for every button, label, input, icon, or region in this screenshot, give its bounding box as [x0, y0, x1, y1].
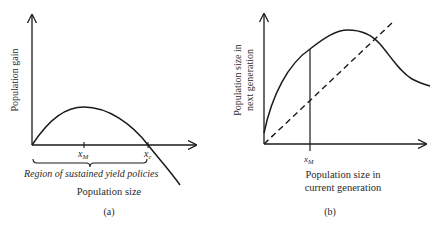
- panel-a: xM xc Region of sustained yield policies…: [9, 15, 196, 218]
- panel-b: xM Population size in next generation Po…: [232, 14, 430, 218]
- panel-b-reproduction-curve: [264, 30, 430, 133]
- panel-b-y-axis-label-line2: next generation: [244, 49, 255, 111]
- panel-b-x-axis-label-line2: current generation: [305, 182, 382, 193]
- panel-a-region-brace: [33, 159, 147, 167]
- panel-b-caption: (b): [324, 206, 336, 218]
- panel-b-x-axis-label-line1: Population size in: [305, 169, 381, 180]
- panel-a-xm-label: xM: [77, 148, 89, 161]
- panel-a-xc-label: xc: [143, 148, 152, 161]
- panel-a-brace-label: Region of sustained yield policies: [23, 168, 159, 179]
- panel-b-identity-line: [264, 22, 393, 144]
- panel-a-caption: (a): [103, 206, 114, 218]
- panel-b-xm-label: xM: [303, 154, 314, 165]
- panel-b-y-axis-label-line1: Population size in: [232, 44, 243, 116]
- panel-a-y-axis-label: Population gain: [9, 48, 20, 111]
- figure-canvas: xM xc Region of sustained yield policies…: [0, 0, 443, 231]
- panel-a-x-axis-label: Population size: [77, 186, 142, 197]
